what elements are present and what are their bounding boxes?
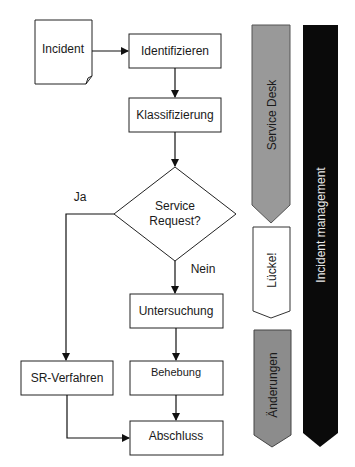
arrow-decision-to-sr-verfahren (66, 214, 114, 360)
service-desk-bar: Service Desk (252, 25, 290, 223)
aenderungen-label: Änderungen (266, 352, 280, 417)
service-desk-label: Service Desk (265, 79, 279, 151)
sr-verfahren-node: SR-Verfahren (21, 361, 113, 395)
identifizieren-node: Identifizieren (129, 34, 221, 68)
aenderungen-bar: Änderungen (254, 330, 291, 447)
behebung-label: Behebung (151, 366, 201, 378)
flowchart-diagram: Incident Identifizieren Klassifizierung … (0, 0, 355, 467)
abschluss-node: Abschluss (130, 421, 223, 455)
decision-label-line2: Request? (149, 214, 201, 228)
incident-management-label: Incident management (314, 167, 328, 283)
service-request-decision: Service Request? (114, 167, 236, 261)
arrow-sr-verfahren-to-abschluss (67, 395, 129, 438)
incident-management-bar: Incident management (303, 25, 338, 447)
behebung-node: Behebung (130, 361, 223, 395)
abschluss-label: Abschluss (149, 429, 204, 443)
decision-label-line1: Service (155, 199, 195, 213)
edge-label-ja: Ja (74, 190, 87, 204)
klassifizierung-node: Klassifizierung (129, 98, 221, 132)
identifizieren-label: Identifizieren (141, 44, 209, 58)
untersuchung-node: Untersuchung (130, 294, 223, 328)
klassifizierung-label: Klassifizierung (136, 108, 213, 122)
untersuchung-label: Untersuchung (139, 304, 214, 318)
sr-verfahren-label: SR-Verfahren (31, 371, 104, 385)
luecke-label: Lücke! (265, 252, 279, 287)
incident-label: Incident (42, 42, 85, 56)
incident-document-node: Incident (35, 20, 92, 84)
luecke-bar: Lücke! (253, 227, 290, 318)
edge-label-nein: Nein (191, 262, 216, 276)
